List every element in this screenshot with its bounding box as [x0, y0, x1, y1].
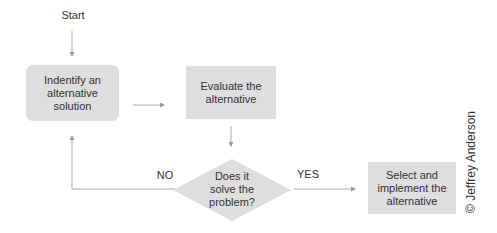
node-decision-label: Does it solve the problem? [202, 170, 262, 209]
node-identify: Indentify an alternative solution [26, 65, 119, 121]
copyright-notice: © Jeffrey Anderson [464, 111, 478, 213]
node-identify-label: Indentify an alternative solution [32, 74, 113, 113]
node-select-label: Select and implement the alternative [374, 169, 450, 208]
node-evaluate: Evaluate the alternative [186, 66, 276, 119]
yes-label: YES [294, 168, 322, 181]
node-evaluate-label: Evaluate the alternative [196, 80, 266, 106]
no-label: NO [152, 169, 178, 182]
start-label: Start [56, 9, 90, 22]
node-select: Select and implement the alternative [368, 162, 456, 214]
